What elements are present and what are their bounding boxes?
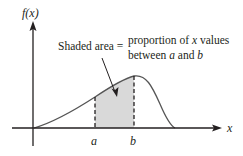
point-a-label: a bbox=[91, 134, 97, 148]
annotation-arrow bbox=[102, 58, 115, 92]
x-axis-label: x bbox=[226, 121, 233, 135]
shaded-area bbox=[95, 76, 134, 128]
density-diagram: f(x) x a b Shaded area = proportion of x… bbox=[0, 0, 243, 156]
annotation-line-1: proportion of x values bbox=[128, 34, 230, 47]
annotation-left: Shaded area = bbox=[58, 40, 123, 52]
annotation-line-2: between a and b bbox=[128, 49, 203, 61]
y-axis-label: f(x) bbox=[22, 6, 39, 20]
point-b-label: b bbox=[130, 134, 136, 148]
